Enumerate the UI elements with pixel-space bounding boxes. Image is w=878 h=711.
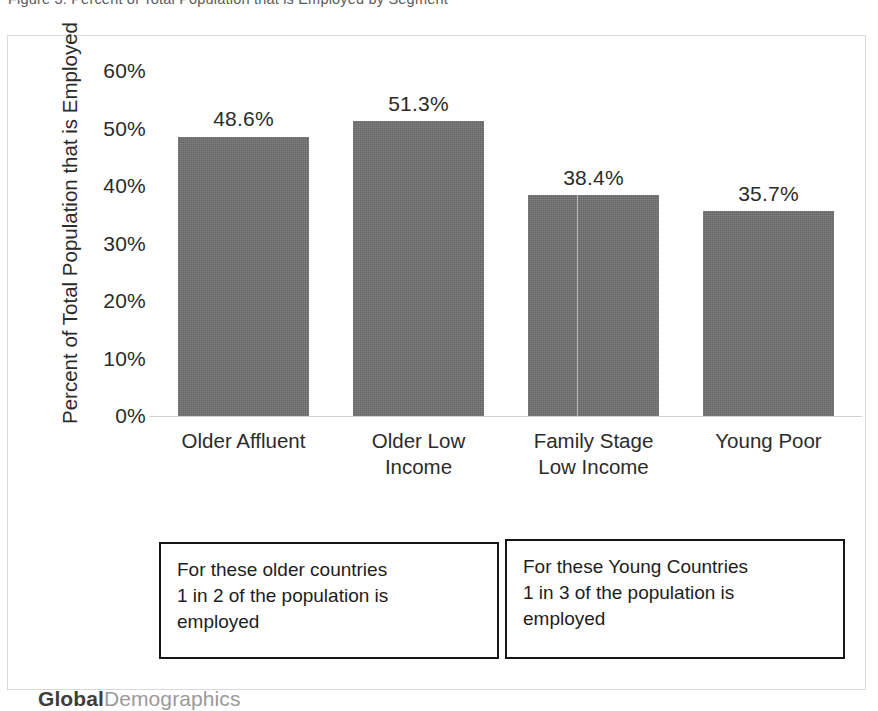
plot-area: 48.6% 51.3% 38.4% 35.7% <box>156 71 856 416</box>
bar-slot-older-low-income: 51.3% <box>331 71 506 416</box>
clipped-caption: Figure 3: Percent of Total Population th… <box>0 0 878 9</box>
brand-light-text: Demographics <box>104 687 241 710</box>
category-line: Young Poor <box>715 429 821 452</box>
category-label-family-stage-low-income: Family Stage Low Income <box>506 428 681 480</box>
callout-line: For these Young Countries <box>523 554 827 580</box>
bar-family-stage-low-income[interactable] <box>528 195 659 416</box>
y-tick-60: 60% <box>84 59 146 83</box>
category-label-older-low-income: Older Low Income <box>331 428 506 480</box>
y-tick-0: 0% <box>84 404 146 428</box>
category-label-older-affluent: Older Affluent <box>156 428 331 454</box>
x-axis-category-labels: Older Affluent Older Low Income Family S… <box>156 428 856 498</box>
y-tick-50: 50% <box>84 117 146 141</box>
category-label-young-poor: Young Poor <box>681 428 856 454</box>
bar-older-low-income[interactable] <box>353 121 484 416</box>
brand-watermark: GlobalDemographics <box>38 687 241 711</box>
category-line: Income <box>385 455 452 478</box>
callout-older-countries: For these older countries 1 in 2 of the … <box>159 542 499 659</box>
category-line: Family Stage <box>534 429 654 452</box>
y-tick-30: 30% <box>84 232 146 256</box>
callout-line: 1 in 3 of the population is <box>523 580 827 606</box>
callout-line: For these older countries <box>177 557 481 583</box>
callout-line: employed <box>177 609 481 635</box>
y-tick-40: 40% <box>84 174 146 198</box>
category-line: Low Income <box>538 455 649 478</box>
brand-bold-text: Global <box>38 687 104 710</box>
bar-value-label-family-stage-low-income: 38.4% <box>506 166 681 190</box>
category-line: Older Affluent <box>182 429 306 452</box>
y-tick-20: 20% <box>84 289 146 313</box>
bar-value-label-young-poor: 35.7% <box>681 182 856 206</box>
callout-young-countries: For these Young Countries 1 in 3 of the … <box>505 539 845 659</box>
category-line: Older Low <box>372 429 465 452</box>
bar-older-affluent[interactable] <box>178 137 309 416</box>
x-axis-line <box>149 416 862 417</box>
callout-line: employed <box>523 606 827 632</box>
bar-slot-family-stage-low-income: 38.4% <box>506 71 681 416</box>
bar-young-poor[interactable] <box>703 211 834 416</box>
chart-frame: Percent of Total Population that is Empl… <box>7 35 866 690</box>
bar-slot-older-affluent: 48.6% <box>156 71 331 416</box>
callout-line: 1 in 2 of the population is <box>177 583 481 609</box>
bar-slot-young-poor: 35.7% <box>681 71 856 416</box>
y-axis-ticks: 60% 50% 40% 30% 20% 10% 0% <box>74 71 146 416</box>
bar-value-label-older-low-income: 51.3% <box>331 92 506 116</box>
bar-value-label-older-affluent: 48.6% <box>156 107 331 131</box>
y-tick-10: 10% <box>84 347 146 371</box>
